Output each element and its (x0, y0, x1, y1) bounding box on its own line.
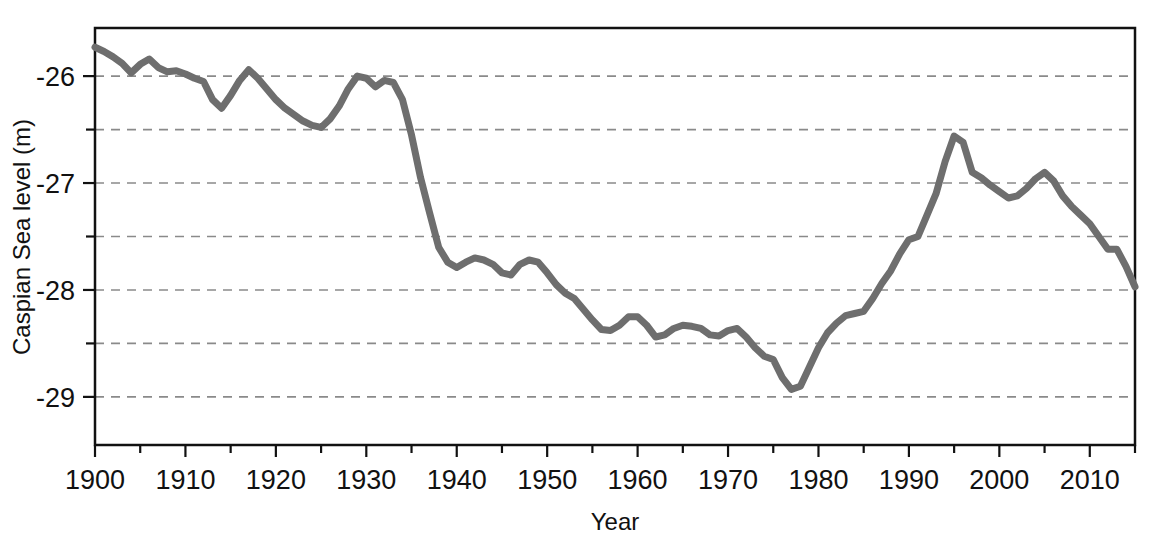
x-tick-label: 1960 (608, 465, 668, 495)
x-tick-label: 1990 (879, 465, 939, 495)
x-tick-label: 1940 (427, 465, 487, 495)
y-tick-label: -26 (36, 62, 75, 92)
x-tick-label: 1970 (698, 465, 758, 495)
x-tick-label: 2000 (969, 465, 1029, 495)
x-tick-label: 1920 (246, 465, 306, 495)
y-tick-label: -27 (36, 169, 75, 199)
y-axis-title: Caspian Sea level (m) (8, 119, 35, 355)
caspian-sea-level-line-chart: 1900191019201930194019501960197019801990… (0, 0, 1155, 545)
x-tick-label: 1900 (65, 465, 125, 495)
x-tick-label: 1930 (336, 465, 396, 495)
x-axis-title: Year (591, 508, 640, 535)
y-tick-label: -28 (36, 276, 75, 306)
chart-figure: 1900191019201930194019501960197019801990… (0, 0, 1155, 545)
chart-background (0, 0, 1155, 545)
x-tick-label: 1950 (517, 465, 577, 495)
x-tick-label: 2010 (1060, 465, 1120, 495)
x-tick-label: 1910 (155, 465, 215, 495)
y-tick-label: -29 (36, 383, 75, 413)
x-tick-label: 1980 (788, 465, 848, 495)
